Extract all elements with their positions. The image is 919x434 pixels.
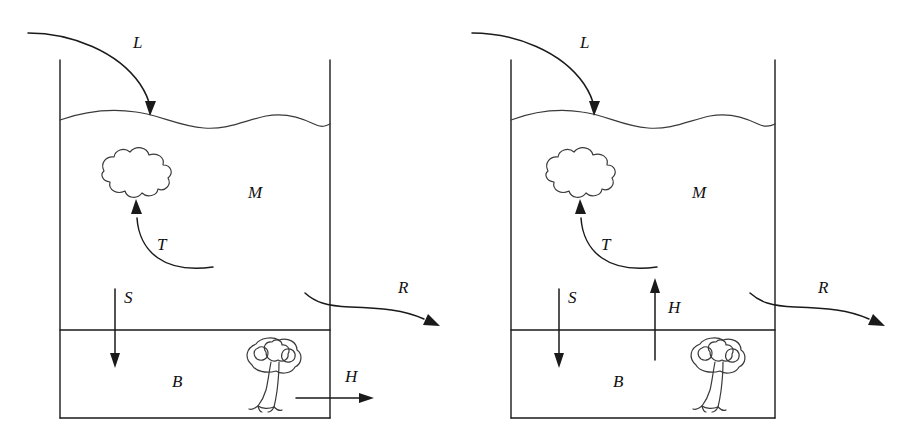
right-panel-flux-S-label: S <box>568 288 577 307</box>
reservoir-flux-diagram: L T S R H <box>0 0 919 434</box>
left-panel-pool-M-label: M <box>247 183 263 202</box>
left-panel-cloud-icon <box>102 148 171 198</box>
diagram-root: L T S R H <box>0 0 919 434</box>
right-panel-flux-H-label: H <box>667 298 682 317</box>
right-panel-flux-L-label: L <box>579 33 589 52</box>
right-panel-flux-L-arrow <box>472 33 594 107</box>
left-panel-flux-T-arrowhead <box>131 199 142 214</box>
right-panel-flux-R-arrowhead <box>868 314 885 326</box>
left-panel-water-surface <box>60 111 330 129</box>
right-panel-flux-S-arrowhead <box>554 353 564 368</box>
left-panel-flux-R-label: R <box>397 278 409 297</box>
right-panel-flux-R-arrow <box>750 293 869 319</box>
left-panel-pool-B-label: B <box>172 372 183 391</box>
left-panel-flux-T-arrow <box>137 218 213 268</box>
right-panel-flux-R-label: R <box>817 278 829 297</box>
right-panel-cloud-icon <box>546 148 615 198</box>
right-panel-flux-H-arrowhead <box>650 278 660 293</box>
right-panel-flux-T-arrowhead <box>575 199 586 214</box>
left-panel-flux-S-label: S <box>124 288 133 307</box>
left-panel-tree-icon <box>247 338 301 412</box>
right-panel-pool-M-label: M <box>691 183 707 202</box>
left-panel-flux-H-label: H <box>344 367 359 386</box>
left-panel: L T S R H <box>28 33 440 418</box>
right-panel-flux-T-arrow <box>581 218 657 268</box>
right-panel-flux-T-label: T <box>601 235 612 254</box>
right-panel-water-surface <box>511 111 775 129</box>
left-panel-flux-S-arrowhead <box>110 353 120 368</box>
left-panel-flux-L-arrow <box>28 33 150 107</box>
left-panel-flux-L-label: L <box>132 33 142 52</box>
left-panel-flux-R-arrowhead <box>423 314 440 326</box>
right-panel: L T S H R <box>472 33 885 418</box>
left-panel-flux-T-label: T <box>157 235 168 254</box>
right-panel-tree-icon <box>691 338 745 412</box>
right-panel-pool-B-label: B <box>613 372 624 391</box>
left-panel-flux-H-arrowhead <box>359 393 374 403</box>
